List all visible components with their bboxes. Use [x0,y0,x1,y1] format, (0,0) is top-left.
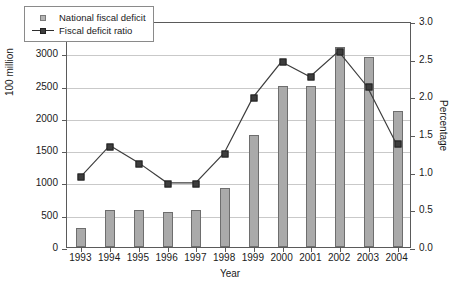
y-axis-right-tick [410,98,415,99]
x-axis-tick-label: 2000 [267,252,296,263]
x-axis-tick-label: 1999 [239,252,268,263]
y-axis-left-tick-label: 0 [26,243,58,253]
line-marker [279,59,286,66]
x-axis-title: Year [0,268,460,279]
line-series [67,23,410,247]
line-marker [365,84,372,91]
y-axis-right-tick-label: 0.5 [419,205,433,215]
y-axis-left-tick [62,249,67,250]
x-axis-tick-label: 1993 [66,252,95,263]
y-axis-right-tick-label: 2.5 [419,55,433,65]
line-marker [337,48,344,55]
y-axis-right-tick [410,61,415,62]
x-axis-tick-label: 2003 [354,252,383,263]
y-axis-right-tick [410,23,415,24]
y-axis-left-tick-label: 2000 [26,114,58,124]
y-axis-right-tick-label: 0.0 [419,243,433,253]
x-axis-tick-label: 1994 [95,252,124,263]
y-axis-right-title: Percentage [438,100,449,151]
bar-swatch-icon [30,11,56,24]
line-marker [135,160,142,167]
line-marker-swatch-icon [30,24,56,37]
x-axis-tick-label: 1998 [210,252,239,263]
y-axis-right-tick-label: 1.5 [419,130,433,140]
x-axis-tick-label: 2001 [296,252,325,263]
fiscal-deficit-ratio-line [81,51,395,182]
y-axis-left-title: 100 million [4,48,15,96]
line-marker [308,74,315,81]
x-axis-tick-label: 1996 [152,252,181,263]
line-marker [107,143,114,150]
chart-legend: National fiscal deficit Fiscal deficit r… [24,6,154,42]
y-axis-right-tick-label: 3.0 [419,17,433,27]
legend-item-fiscal-deficit-ratio[interactable]: Fiscal deficit ratio [30,24,146,37]
fiscal-deficit-chart: 100 million Percentage Year 199319941995… [0,0,460,295]
x-axis-tick-label: 2004 [382,252,411,263]
line-marker [164,181,171,188]
y-axis-right-tick [410,136,415,137]
plot-area [66,22,411,248]
x-axis-tick-label: 2002 [325,252,354,263]
legend-item-label: Fiscal deficit ratio [56,24,132,37]
y-axis-left-tick-label: 2500 [26,82,58,92]
y-axis-right-tick-label: 2.0 [419,92,433,102]
line-marker [193,181,200,188]
y-axis-left-tick-label: 1500 [26,146,58,156]
legend-item-label: National fiscal deficit [56,11,146,24]
line-marker [78,174,85,181]
legend-item-national-fiscal-deficit[interactable]: National fiscal deficit [30,11,146,24]
y-axis-right-tick [410,174,415,175]
y-axis-left-tick-label: 1000 [26,178,58,188]
y-axis-right-tick-label: 1.0 [419,168,433,178]
y-axis-left-tick-label: 500 [26,211,58,221]
line-marker [222,151,229,158]
y-axis-right-tick [410,249,415,250]
y-axis-left-tick-label: 3000 [26,49,58,59]
line-marker [250,95,257,102]
x-axis-tick-label: 1997 [181,252,210,263]
line-marker [394,140,401,147]
y-axis-right-tick [410,211,415,212]
x-axis-tick-label: 1995 [124,252,153,263]
